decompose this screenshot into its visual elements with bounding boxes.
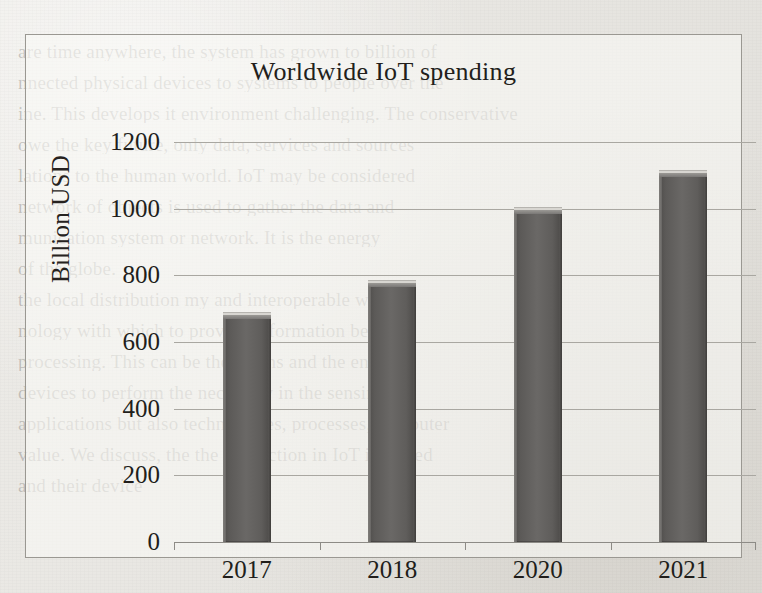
x-axis-tick-label: 2017 bbox=[222, 556, 272, 584]
bar-cap-highlight bbox=[368, 280, 416, 283]
bar-cap-highlight bbox=[659, 170, 707, 173]
chart-figure: Worldwide IoT spending Billion USD 02004… bbox=[25, 34, 742, 558]
y-axis-title: Billion USD bbox=[47, 109, 75, 329]
bar-right-edge bbox=[413, 280, 416, 542]
bar-left-edge bbox=[223, 312, 226, 542]
bar-left-edge bbox=[659, 170, 662, 542]
y-axis-tick-label: 800 bbox=[123, 261, 161, 289]
bar-cap-highlight bbox=[514, 207, 562, 210]
x-axis-tick bbox=[174, 542, 175, 550]
y-axis-tick-label: 200 bbox=[123, 461, 161, 489]
bar-2017 bbox=[223, 312, 271, 542]
bar-left-edge bbox=[368, 280, 371, 542]
y-axis-tick-label: 1200 bbox=[110, 128, 160, 156]
bar-cap-highlight bbox=[223, 312, 271, 315]
x-axis-tick-label: 2020 bbox=[513, 556, 563, 584]
bar-2018 bbox=[368, 280, 416, 542]
y-axis-tick-label: 0 bbox=[148, 528, 161, 556]
chart-title: Worldwide IoT spending bbox=[26, 57, 741, 87]
x-axis-tick bbox=[320, 542, 321, 550]
gridline bbox=[174, 142, 756, 143]
bar-right-edge bbox=[559, 207, 562, 542]
bar-cap-shadow bbox=[514, 210, 562, 214]
x-axis-tick bbox=[611, 542, 612, 550]
bar-right-edge bbox=[268, 312, 271, 542]
bar-2021 bbox=[659, 170, 707, 542]
x-axis-tick-label: 2018 bbox=[367, 556, 417, 584]
bar-cap-shadow bbox=[223, 315, 271, 319]
x-axis-tick bbox=[465, 542, 466, 550]
plot-area: 0200400600800100012002017201820202021 bbox=[174, 142, 756, 542]
y-axis-tick-label: 1000 bbox=[110, 195, 160, 223]
y-axis-tick-label: 400 bbox=[123, 395, 161, 423]
bar-cap-shadow bbox=[659, 173, 707, 177]
y-axis-tick-label: 600 bbox=[123, 328, 161, 356]
bar-cap-shadow bbox=[368, 283, 416, 287]
x-axis-tick bbox=[755, 542, 756, 550]
x-axis-tick-label: 2021 bbox=[658, 556, 708, 584]
bar-2020 bbox=[514, 207, 562, 542]
bar-right-edge bbox=[704, 170, 707, 542]
bar-left-edge bbox=[514, 207, 517, 542]
